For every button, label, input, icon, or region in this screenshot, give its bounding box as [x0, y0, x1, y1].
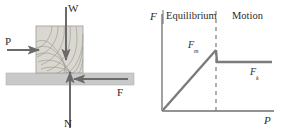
free-body-diagram: [6, 7, 134, 128]
breakaway-drop: [216, 50, 217, 62]
y-axis-label: F: [150, 11, 157, 22]
annotation-kinetic-friction: Fk: [250, 67, 259, 79]
x-axis-label: P: [264, 115, 271, 126]
static-friction-ramp: [163, 50, 216, 110]
force-label-P: P: [5, 36, 11, 47]
region-label-equilibrium: Equilibrium: [166, 11, 217, 22]
annotation-fk-subscript: k: [256, 74, 259, 81]
friction-graph: [162, 10, 274, 111]
force-label-F: F: [117, 87, 123, 98]
annotation-fm-subscript: m: [194, 47, 198, 54]
region-label-motion: Motion: [232, 11, 263, 22]
annotation-max-static-friction: Fm: [188, 40, 199, 52]
force-label-N: N: [64, 118, 72, 129]
force-label-W: W: [68, 3, 78, 14]
